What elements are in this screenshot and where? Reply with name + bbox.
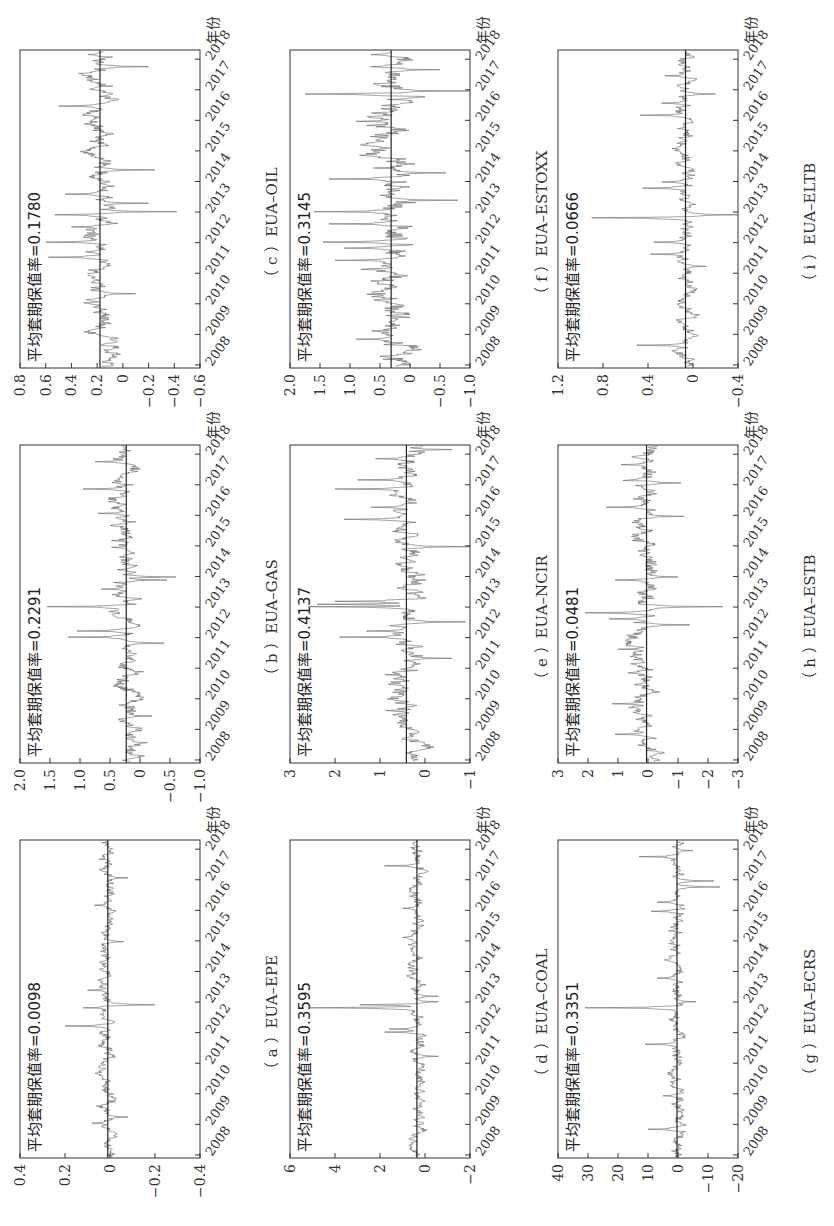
- x-tick-label: 2011: [202, 636, 233, 672]
- y-tick-label: 0.4: [640, 374, 656, 396]
- y-tick-label: 0: [670, 1164, 686, 1173]
- y-tick-label: 40: [550, 1164, 566, 1182]
- chart-svg: 403020100−10−202008200920102011201220132…: [550, 816, 795, 1216]
- y-tick-label: 0: [115, 374, 131, 383]
- x-tick-label: 2013: [740, 970, 771, 1006]
- x-tick-label: 2010: [472, 1062, 503, 1098]
- x-tick-label: 2013: [472, 180, 503, 216]
- x-tick-label: 2012: [472, 606, 503, 642]
- y-tick-label: 0.4: [12, 1164, 28, 1186]
- chart-svg: 2.01.51.00.50−0.5−1.02008200920102011201…: [282, 26, 527, 426]
- x-tick-label: 2008: [202, 333, 233, 369]
- chart-panel-eua-coal: 6420−22008200920102011201220132014201520…: [282, 816, 547, 1216]
- x-tick-label: 2015: [472, 514, 503, 550]
- x-tick-label: 2017: [472, 848, 503, 884]
- hedge-ratio-series-line: [47, 447, 176, 762]
- x-tick-label: 2015: [740, 119, 771, 155]
- x-tick-label: 2009: [202, 1092, 233, 1128]
- x-tick-label: 2014: [740, 544, 771, 580]
- y-tick-label: 2: [327, 769, 343, 778]
- y-tick-label: 10: [640, 1164, 656, 1182]
- x-tick-label: 2013: [202, 575, 233, 611]
- x-tick-label: 2012: [202, 211, 233, 247]
- x-tick-label: 2010: [202, 1062, 233, 1098]
- x-tick-label: 2012: [740, 606, 771, 642]
- hedge-ratio-series-line: [308, 447, 470, 762]
- mean-hedge-ratio-annotation: 平均套期保值率=0.3351: [564, 982, 582, 1152]
- panel-caption: （ b ）EUA–GAS: [260, 421, 281, 821]
- x-tick-label: 2010: [740, 272, 771, 308]
- x-tick-label: 2014: [472, 939, 503, 975]
- mean-hedge-ratio-annotation: 平均套期保值率=0.4137: [296, 587, 314, 757]
- y-tick-label: −0.5: [162, 769, 178, 803]
- plot-frame: [20, 445, 200, 763]
- x-axis-unit-label: 年份: [743, 16, 759, 44]
- x-tick-label: 2016: [202, 878, 233, 914]
- y-tick-label: 2.0: [12, 769, 28, 791]
- x-tick-label: 2015: [202, 119, 233, 155]
- chart-panel-eua-ncir: 3210−12008200920102011201220132014201520…: [282, 421, 547, 821]
- y-tick-label: 0: [102, 1164, 118, 1173]
- x-axis-unit-label: 年份: [205, 16, 221, 44]
- x-tick-label: 2013: [202, 970, 233, 1006]
- x-tick-label: 2017: [202, 58, 233, 94]
- y-tick-label: 0.6: [38, 374, 54, 396]
- x-tick-label: 2008: [472, 1123, 503, 1159]
- mean-hedge-ratio-annotation: 平均套期保值率=0.2291: [26, 587, 44, 757]
- panel-caption: （ e ）EUA–NCIR: [530, 421, 551, 821]
- y-tick-label: 0.5: [102, 769, 118, 791]
- plot-frame: [558, 445, 738, 763]
- x-tick-label: 2012: [472, 211, 503, 247]
- mean-hedge-ratio-annotation: 平均套期保值率=0.1780: [26, 192, 44, 362]
- figure-caption-cropped: ▪ ▪ ▪ ▪ ▪ ▪ ▪ ▪ ▪ ▪ ▪ ▪ ▪ ▪ ▪ ▪ ▪ ▪ ▪ ▪: [806, 346, 834, 846]
- x-tick-label: 2014: [472, 149, 503, 185]
- mean-hedge-ratio-annotation: 平均套期保值率=0.0098: [26, 982, 44, 1152]
- x-tick-label: 2017: [472, 58, 503, 94]
- x-tick-label: 2008: [472, 333, 503, 369]
- chart-svg: 0.80.60.40.20−0.2−0.4−0.6200820092010201…: [12, 26, 257, 426]
- y-tick-label: −1: [670, 769, 686, 790]
- x-tick-label: 2011: [472, 636, 503, 672]
- chart-svg: 2.01.51.00.50−0.5−1.02008200920102011201…: [12, 421, 257, 821]
- y-tick-label: 0.4: [63, 374, 79, 396]
- y-tick-label: 2: [372, 1164, 388, 1173]
- y-tick-label: 2.0: [282, 374, 298, 396]
- x-tick-label: 2011: [202, 1031, 233, 1067]
- chart-panel-eua-ecrs: 403020100−10−202008200920102011201220132…: [550, 816, 815, 1216]
- x-tick-label: 2011: [202, 241, 233, 277]
- chart-panel-eua-oil: 0.80.60.40.20−0.2−0.4−0.6200820092010201…: [12, 26, 277, 426]
- y-tick-label: −1.0: [192, 769, 208, 803]
- y-tick-label: 0: [402, 374, 418, 383]
- hedge-ratio-series-line: [310, 842, 438, 1157]
- x-tick-label: 2017: [740, 58, 771, 94]
- x-axis-unit-label: 年份: [475, 16, 491, 44]
- y-tick-label: −1: [462, 769, 478, 790]
- x-tick-label: 2008: [472, 728, 503, 764]
- x-tick-label: 2016: [472, 878, 503, 914]
- y-tick-label: 2: [580, 769, 596, 778]
- x-tick-label: 2017: [740, 453, 771, 489]
- y-tick-label: 0: [417, 769, 433, 778]
- x-tick-label: 2012: [202, 1001, 233, 1037]
- hedge-ratio-series-line: [305, 52, 470, 367]
- x-tick-label: 2014: [202, 149, 233, 185]
- x-tick-label: 2010: [740, 1062, 771, 1098]
- x-tick-label: 2008: [740, 728, 771, 764]
- x-tick-label: 2015: [740, 909, 771, 945]
- x-tick-label: 2014: [740, 149, 771, 185]
- x-tick-label: 2011: [740, 241, 771, 277]
- y-tick-label: −0.2: [147, 1164, 163, 1198]
- panel-caption: （ d ）EUA–COAL: [530, 816, 551, 1216]
- plot-frame: [558, 840, 738, 1158]
- y-tick-label: 0: [132, 769, 148, 778]
- x-tick-label: 2012: [202, 606, 233, 642]
- x-tick-label: 2010: [472, 667, 503, 703]
- y-tick-label: −3: [730, 769, 746, 790]
- x-tick-label: 2014: [472, 544, 503, 580]
- hedge-ratio-series-line: [46, 52, 177, 367]
- y-tick-label: 0: [417, 1164, 433, 1173]
- y-tick-label: −0.4: [192, 1164, 208, 1198]
- x-tick-label: 2008: [740, 1123, 771, 1159]
- x-tick-label: 2012: [740, 211, 771, 247]
- y-tick-label: 1.0: [342, 374, 358, 396]
